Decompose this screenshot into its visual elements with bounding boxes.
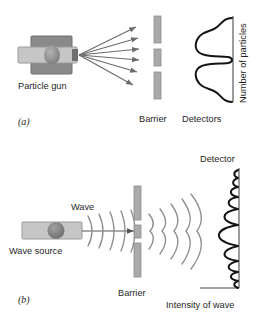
wave-label: Wave [71, 202, 94, 212]
panel-a-barrier [154, 16, 161, 99]
barrier-segment [134, 225, 141, 238]
barrier-segment [154, 49, 161, 66]
particle-gun-label: Particle gun [18, 81, 67, 91]
panel-b-barrier-label: Barrier [118, 288, 146, 298]
panel-a-label: (a) [18, 116, 30, 128]
panel-a-detectors-label: Detectors [182, 114, 222, 124]
detector-label: Detector [200, 154, 235, 164]
figure-root: Particle gun Barrier Detectors Number of… [0, 0, 266, 313]
gun-muzzle-ball [44, 46, 60, 65]
wave-source-emitter [48, 222, 65, 239]
panel-b-label: (b) [18, 294, 30, 306]
panel-b-barrier [134, 186, 141, 277]
intensity-of-wave-label: Intensity of wave [166, 300, 234, 310]
barrier-segment [154, 72, 161, 99]
gun-nozzle [72, 49, 78, 61]
barrier-segment [154, 16, 161, 43]
barrier-segment [134, 186, 141, 220]
panel-a-barrier-label: Barrier [139, 114, 167, 124]
barrier-segment [134, 243, 141, 277]
number-of-particles-axis-label: Number of particles [238, 23, 248, 103]
physics-figure: Particle gun Barrier Detectors Number of… [0, 0, 266, 313]
wave-source-label: Wave source [9, 246, 62, 256]
wave-source [22, 222, 82, 239]
